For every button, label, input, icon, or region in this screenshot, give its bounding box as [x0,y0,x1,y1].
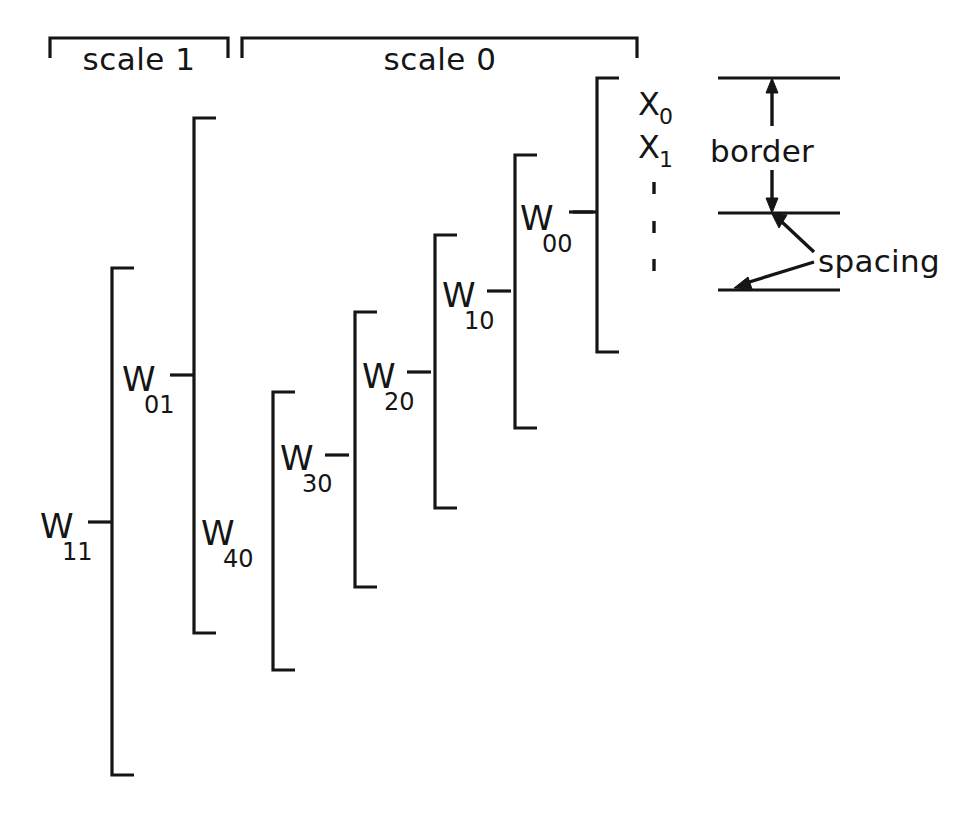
bracket-w01-w40-path [194,118,216,633]
bracket-w00-path [515,155,537,428]
border-arrow-up-icon [766,78,778,126]
detail-panel: border spacing [710,78,940,290]
bracket-w20-label-sub: 20 [384,388,415,416]
x-entry-0-sub: 0 [659,104,673,129]
scale-group-scale-0: scale 0 [242,38,637,77]
bracket-w01-label-sub: 01 [144,391,175,419]
bracket-x-vector-path [597,78,619,352]
bracket-w10-label-sub: 10 [464,307,495,335]
bracket-w10: W 10 [435,235,511,508]
bracket-w11: W 11 [40,268,134,775]
bracket-w40-label-sub: 40 [223,545,254,573]
x-entry-1-base: X [638,128,660,166]
bracket-w01-w40: W 01 W 40 [122,118,254,633]
bracket-w00-label-sub: 00 [542,230,573,258]
bracket-w20-path [355,312,377,587]
scale-group-scale-1: scale 1 [50,38,228,77]
bracket-w30-label-sub: 30 [302,470,333,498]
scale-1-label: scale 1 [83,41,196,77]
bracket-x-vector [573,78,619,352]
bracket-w20: W 20 [355,312,431,587]
bracket-w11-label-sub: 11 [62,538,93,566]
x-entry-list: X 0 X 1 [638,85,673,271]
bracket-w00: W 00 [515,155,593,428]
spacing-arrow-lower-icon [734,262,814,289]
x-entry-1-sub: 1 [659,147,673,172]
border-label: border [710,133,814,169]
bracket-w30: W 30 [273,392,349,670]
diagram-canvas: scale 1 scale 0 W 11 W 01 W 40 W 30 [0,0,956,818]
bracket-w30-path [273,392,295,670]
scale-0-label: scale 0 [384,41,497,77]
border-arrow-down-icon [766,170,778,213]
spacing-label: spacing [818,243,940,279]
spacing-arrow-upper-icon [772,214,814,252]
x-entry-0-base: X [638,85,660,123]
bracket-w11-path [112,268,134,775]
diagram-root: scale 1 scale 0 W 11 W 01 W 40 W 30 [0,0,956,818]
